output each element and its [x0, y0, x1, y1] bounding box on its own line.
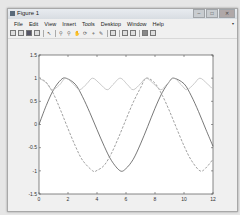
x-tick-label: 4: [96, 196, 99, 202]
axes-plot[interactable]: 024681012-1.5-1-0.500.511.5: [0, 0, 240, 215]
x-tick-label: 6: [125, 196, 128, 202]
y-tick-label: 1.5: [30, 52, 37, 58]
y-tick-label: -0.5: [28, 144, 37, 150]
y-tick-label: -1: [33, 168, 38, 174]
y-tick-label: 1: [34, 75, 37, 81]
y-tick-label: -1.5: [28, 191, 37, 197]
x-tick-label: 2: [67, 196, 70, 202]
x-tick-label: 12: [210, 196, 216, 202]
x-tick-label: 8: [154, 196, 157, 202]
y-tick-label: 0: [34, 121, 37, 127]
axes-box: [39, 55, 213, 194]
x-tick-label: 10: [181, 196, 187, 202]
y-tick-label: 0.5: [30, 98, 37, 104]
x-tick-label: 0: [38, 196, 41, 202]
